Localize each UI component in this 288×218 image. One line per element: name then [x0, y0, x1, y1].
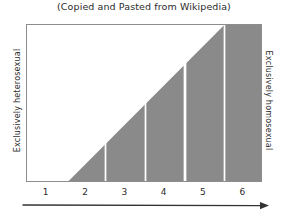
plot-area	[26, 24, 262, 182]
left-axis-label: Exclusively heterosexual	[13, 36, 22, 166]
chart-title: (Copied and Pasted from Wikipedia)	[0, 1, 288, 12]
x-tick-label: 4	[144, 185, 183, 199]
x-axis-arrow-icon	[22, 200, 270, 214]
column-divider-3	[145, 25, 147, 181]
x-tick-label-row: 1 2 3 4 5 6	[26, 185, 262, 199]
x-tick-label: 6	[223, 185, 262, 199]
right-axis-label: Exclusively homosexual	[264, 36, 273, 166]
x-tick-label: 5	[183, 185, 222, 199]
column-divider-4	[184, 25, 186, 181]
x-tick-label: 2	[65, 185, 104, 199]
x-tick-label: 3	[105, 185, 144, 199]
column-divider-1	[65, 25, 67, 181]
column-divider-2	[105, 25, 107, 181]
column-divider-5	[224, 25, 226, 181]
x-tick-label: 1	[26, 185, 65, 199]
kinsey-scale-figure: (Copied and Pasted from Wikipedia) Exclu…	[0, 0, 288, 218]
shaded-wedge	[69, 25, 261, 181]
